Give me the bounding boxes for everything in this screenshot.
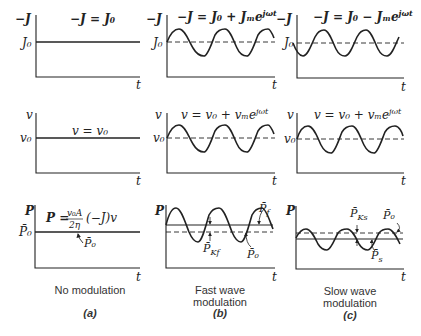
ylabel: P xyxy=(24,204,35,218)
equation: v = v₀ xyxy=(72,124,108,138)
axes xyxy=(36,113,140,173)
plot-a-velocity xyxy=(36,113,140,173)
plot-c-velocity xyxy=(297,113,404,173)
panel-tag-a: (a) xyxy=(70,307,110,319)
waveform-sine xyxy=(167,29,274,56)
xlabel: t xyxy=(136,174,141,188)
caption-a: No modulation xyxy=(40,284,140,296)
mean-annotation: P̄s xyxy=(370,249,383,264)
ylabel: −J xyxy=(276,12,293,26)
xlabel: t xyxy=(272,78,277,92)
ylabel: P xyxy=(154,204,165,218)
level-label: J₀ xyxy=(150,36,163,50)
ylabel: −J xyxy=(146,12,163,26)
caption-b: Fast wave modulation xyxy=(170,284,270,308)
ylabel: P xyxy=(285,204,296,218)
caption-c-line1: Slow wave xyxy=(300,285,400,297)
ylabel: v xyxy=(287,108,294,122)
equation: −J = J₀ xyxy=(70,12,116,26)
ylabel: v xyxy=(155,108,162,122)
equation: v = v₀ + vₘejωt xyxy=(314,107,402,122)
xlabel: t xyxy=(401,174,406,188)
equation-denominator: 2η xyxy=(68,220,81,230)
kinetic-annotation: P̄Kf xyxy=(202,242,221,257)
dc-annotation: P̄₀ xyxy=(246,248,259,261)
xlabel: t xyxy=(401,270,406,284)
level-label: v₀ xyxy=(20,131,32,145)
pointer-arrow xyxy=(78,234,83,243)
xlabel: t xyxy=(401,80,406,94)
level-label: J₀ xyxy=(19,36,32,50)
axes xyxy=(297,113,404,173)
axes xyxy=(297,15,404,78)
plot-b-current xyxy=(167,15,275,77)
dc-pointer xyxy=(397,223,400,232)
dc-annotation: P̄₀ xyxy=(83,237,96,250)
level-label: J₀ xyxy=(281,36,294,50)
axes xyxy=(167,113,275,173)
ylabel: −J xyxy=(15,12,32,26)
panel-tag-c: (c) xyxy=(330,309,370,321)
plot-c-current xyxy=(293,15,404,78)
equation-numerator: v₀A xyxy=(67,208,83,218)
level-label: P̄₀ xyxy=(18,224,32,239)
ylabel: v xyxy=(26,108,33,122)
mean-annotation: P̄f xyxy=(258,202,271,217)
caption-c: Slow wave modulation xyxy=(300,285,400,309)
equation-rhs: (−J)v xyxy=(86,211,117,225)
level-label: v₀ xyxy=(284,132,296,146)
xlabel: t xyxy=(136,270,141,284)
waveform-sine xyxy=(297,126,403,153)
waveform-sine xyxy=(167,125,274,152)
caption-c-line2: modulation xyxy=(300,297,400,309)
axes xyxy=(167,15,275,77)
equation-lhs: P = xyxy=(45,211,69,225)
equation: −J = J₀ − Jₘejωt xyxy=(313,8,413,24)
dc-annotation: P̄₀ xyxy=(382,209,395,222)
kinetic-annotation: P̄Ks xyxy=(349,207,368,222)
plot-b-velocity xyxy=(167,113,275,173)
equation: v = v₀ + vₘejωt xyxy=(181,107,269,122)
xlabel: t xyxy=(272,270,277,284)
caption-b-line1: Fast wave xyxy=(170,284,270,296)
panel-tag-b: (b) xyxy=(200,307,240,319)
xlabel: t xyxy=(272,174,277,188)
dc-pointer xyxy=(246,233,251,247)
equation: −J = J₀ + Jₘejωt xyxy=(177,8,277,24)
level-label: v₀ xyxy=(153,131,165,145)
xlabel: t xyxy=(136,78,141,92)
